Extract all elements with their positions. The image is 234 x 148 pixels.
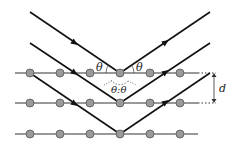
reflected-angle-arc — [132, 65, 134, 73]
atom — [116, 130, 124, 138]
atom — [116, 69, 124, 77]
arrow-up-icon — [212, 73, 217, 77]
atom — [26, 69, 34, 77]
arrow-down-icon — [212, 99, 217, 103]
theta-incident-label: θ — [96, 61, 103, 74]
atom — [26, 130, 34, 138]
atom — [176, 99, 184, 107]
atom — [86, 99, 94, 107]
atom — [56, 99, 64, 107]
crystal-planes — [15, 73, 216, 134]
atom — [176, 69, 184, 77]
atom — [146, 69, 154, 77]
diagram-canvas: θ θ θ:θ d — [0, 0, 234, 148]
theta-pair-label: θ:θ — [111, 84, 126, 95]
atom — [146, 130, 154, 138]
atom — [56, 130, 64, 138]
atom — [26, 99, 34, 107]
theta-reflected-label: θ — [136, 61, 143, 74]
incident-angle-arc — [106, 65, 108, 73]
atom — [146, 99, 154, 107]
spacing-d-label: d — [219, 82, 226, 95]
atom — [176, 130, 184, 138]
atom — [116, 99, 124, 107]
spacing-indicator: d — [212, 73, 227, 103]
atom — [56, 69, 64, 77]
atom — [86, 69, 94, 77]
bragg-diagram: θ θ θ:θ d — [0, 0, 234, 148]
atom — [86, 130, 94, 138]
normal-dotted-right — [128, 81, 136, 85]
